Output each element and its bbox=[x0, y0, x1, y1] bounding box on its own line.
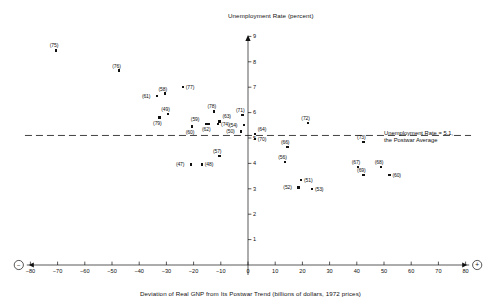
data-point bbox=[164, 92, 166, 94]
y-tick-label: 2 bbox=[253, 211, 256, 217]
data-point bbox=[55, 49, 57, 51]
scatter-plot-canvas: −+ bbox=[0, 0, 496, 306]
data-point bbox=[286, 146, 288, 148]
data-point bbox=[243, 124, 245, 126]
data-point bbox=[254, 138, 256, 140]
reference-line-annotation-line2: the Postwar Average bbox=[384, 137, 453, 144]
data-point-label: (49) bbox=[161, 106, 170, 112]
data-point bbox=[158, 116, 160, 118]
data-point bbox=[284, 161, 286, 163]
x-tick-label: 20 bbox=[296, 268, 308, 274]
data-point-label: (70) bbox=[258, 136, 267, 142]
data-point bbox=[241, 114, 243, 116]
x-tick-label: −30 bbox=[160, 268, 172, 274]
y-tick-label: 4 bbox=[253, 160, 256, 166]
data-point-label: (78) bbox=[208, 103, 217, 109]
x-axis-title: Deviation of Real GNP from Its Postwar T… bbox=[140, 290, 361, 297]
data-point bbox=[297, 186, 299, 188]
data-point-label: (60) bbox=[392, 172, 401, 178]
data-point-label: (77) bbox=[186, 84, 195, 90]
data-point bbox=[254, 133, 256, 135]
x-tick-label: 0 bbox=[242, 268, 254, 274]
data-point bbox=[207, 123, 209, 125]
data-point-label: (50) bbox=[226, 128, 235, 134]
x-tick-label: −10 bbox=[215, 268, 227, 274]
data-point bbox=[388, 174, 390, 176]
data-point bbox=[201, 163, 203, 165]
data-point bbox=[190, 163, 192, 165]
data-point-label: (47) bbox=[176, 161, 185, 167]
x-tick-label: −70 bbox=[52, 268, 64, 274]
y-tick-label: 7 bbox=[253, 84, 256, 90]
x-tick-label: −40 bbox=[133, 268, 145, 274]
data-point bbox=[218, 155, 220, 157]
x-tick-label: −50 bbox=[106, 268, 118, 274]
data-point-label: (64) bbox=[258, 126, 267, 132]
data-point-label: (68) bbox=[375, 159, 384, 165]
data-point-label: (69) bbox=[357, 167, 366, 173]
data-point-label: (52) bbox=[283, 184, 292, 190]
x-tick-label: 40 bbox=[351, 268, 363, 274]
data-point-label: (63) bbox=[222, 113, 231, 119]
data-point-label: (61) bbox=[142, 93, 151, 99]
y-tick-label: 9 bbox=[253, 33, 256, 39]
x-tick-label: −60 bbox=[79, 268, 91, 274]
data-point bbox=[362, 174, 364, 176]
data-point bbox=[307, 122, 309, 124]
y-tick-label: 8 bbox=[253, 59, 256, 65]
data-point bbox=[311, 188, 313, 190]
x-tick-label: 70 bbox=[432, 268, 444, 274]
data-point-label: (73) bbox=[357, 134, 366, 140]
y-tick-label: 6 bbox=[253, 109, 256, 115]
data-point-label: (60) bbox=[186, 129, 195, 135]
data-point-label: (54) bbox=[229, 122, 238, 128]
x-tick-label: 50 bbox=[378, 268, 390, 274]
data-point-label: (66) bbox=[281, 139, 290, 145]
x-tick-label: 60 bbox=[405, 268, 417, 274]
data-point-label: (79) bbox=[153, 120, 162, 126]
x-tick-label: 80 bbox=[460, 268, 472, 274]
svg-text:+: + bbox=[475, 261, 479, 268]
data-point-label: (51) bbox=[304, 177, 313, 183]
data-point bbox=[217, 123, 219, 125]
data-point bbox=[182, 86, 184, 88]
data-point bbox=[213, 110, 215, 112]
data-point-label: (67) bbox=[352, 159, 361, 165]
data-point-label: (76) bbox=[112, 63, 121, 69]
data-point-label: (48) bbox=[205, 161, 214, 167]
data-point-label: (75) bbox=[50, 42, 59, 48]
reference-line-annotation: Unemployment Rate = 5.1, the Postwar Ave… bbox=[384, 130, 453, 145]
data-point bbox=[300, 179, 302, 181]
data-point-label: (58) bbox=[159, 86, 168, 92]
x-tick-label: 30 bbox=[324, 268, 336, 274]
x-tick-label: −20 bbox=[188, 268, 200, 274]
data-point-label: (72) bbox=[301, 115, 310, 121]
data-point-label: (62) bbox=[202, 126, 211, 132]
data-point bbox=[156, 95, 158, 97]
data-point-label: (57) bbox=[213, 148, 222, 154]
data-point-label: (53) bbox=[315, 186, 324, 192]
svg-text:−: − bbox=[17, 262, 21, 268]
y-axis-title: Unemployment Rate (percent) bbox=[228, 12, 314, 19]
data-point-label: (59) bbox=[191, 116, 200, 122]
data-point bbox=[167, 113, 169, 115]
data-point-label: (71) bbox=[236, 107, 245, 113]
data-point bbox=[380, 166, 382, 168]
data-point bbox=[240, 130, 242, 132]
y-tick-label: 3 bbox=[253, 186, 256, 192]
data-point bbox=[362, 141, 364, 143]
x-tick-label: −80 bbox=[24, 268, 36, 274]
data-point-label: (56) bbox=[278, 154, 287, 160]
data-point bbox=[118, 69, 120, 71]
reference-line-annotation-line1: Unemployment Rate = 5.1, bbox=[384, 130, 453, 137]
x-tick-label: 10 bbox=[269, 268, 281, 274]
data-point bbox=[191, 125, 193, 127]
y-tick-label: 1 bbox=[253, 236, 256, 242]
